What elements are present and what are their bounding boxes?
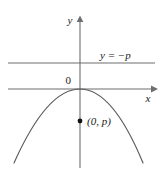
origin-label: 0 [66,74,72,86]
x-axis-label: x [145,92,151,104]
focus-point-dot [78,119,83,124]
figure-canvas: y x 0 y = −p (0, p) [0,0,163,170]
parabola-figure: y x 0 y = −p (0, p) [0,0,163,170]
y-axis-label: y [67,14,73,26]
y-axis-arrow-icon [77,16,84,23]
parabola-curve [14,89,143,163]
directrix-label: y = −p [99,49,131,61]
focus-point-label: (0, p) [87,115,111,128]
x-axis-arrow-icon [151,86,158,93]
